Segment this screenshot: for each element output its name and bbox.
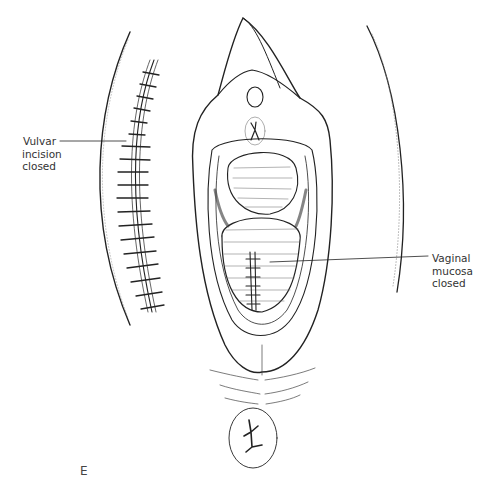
vulvar-incision-sutures [117,60,164,312]
vaginal-mucosa-label: Vaginal mucosa closed [432,252,473,290]
labia-majora [192,18,332,373]
panel-letter: E [80,464,88,478]
clitoris [247,87,263,107]
vulvar-incision-label: Vulvar incision closed [22,135,56,173]
left-thigh-contour [100,32,130,325]
right-thigh-contour [367,26,403,292]
vaginal-lower-lobe [222,218,300,312]
perineum [210,345,315,404]
anus [229,408,277,468]
vaginal-upper-lobe [228,153,298,215]
urethral-meatus [251,122,259,140]
clitoral-hood [243,18,280,88]
vaginal-mucosa-sutures [246,252,260,310]
vaginal-leader-line [270,256,428,262]
surgical-illustration [0,0,485,492]
